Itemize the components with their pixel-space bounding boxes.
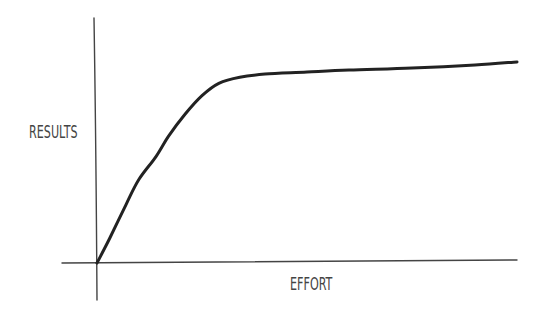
x-axis xyxy=(62,260,517,263)
y-axis-label: RESULTS xyxy=(29,121,78,142)
x-axis-label: EFFORT xyxy=(290,273,332,294)
results-curve xyxy=(97,62,517,263)
y-axis xyxy=(94,18,97,300)
chart-canvas xyxy=(0,0,546,316)
